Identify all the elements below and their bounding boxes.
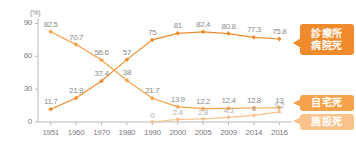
data-point-label: 37.4: [95, 69, 109, 78]
data-point-label: 56.6: [95, 48, 109, 57]
series-marker: [49, 107, 53, 111]
data-point-label: 2.8: [198, 108, 208, 117]
data-point-label: 21.9: [69, 86, 83, 95]
legend-home-line1: 自宅死: [302, 97, 352, 109]
data-point-label: 13.9: [171, 95, 185, 104]
legend-item-hospital[interactable]: 診療所 病院死: [300, 24, 354, 55]
data-point-label: 0: [150, 111, 154, 120]
series-marker: [176, 117, 180, 121]
legend-facility-line1: 施設死: [302, 116, 352, 128]
data-point-label: 57: [123, 48, 131, 57]
series-marker: [176, 31, 180, 35]
series-marker: [252, 35, 256, 39]
series-marker: [227, 115, 231, 119]
data-point-label: 12.4: [222, 96, 236, 105]
series-line: [51, 32, 280, 109]
data-point-label: 82.5: [44, 20, 58, 29]
series-marker: [252, 114, 256, 118]
y-tick-label: 0: [10, 117, 32, 126]
data-point-label: 11.7: [44, 97, 57, 106]
series-marker: [150, 120, 154, 124]
y-tick-label: 30: [10, 84, 32, 93]
legend-item-home[interactable]: 自宅死: [300, 95, 354, 111]
data-point-label: 70.7: [69, 33, 83, 42]
series-line: [152, 112, 279, 122]
data-point-label: 9.2: [274, 101, 284, 110]
y-tick-label: 90: [10, 18, 32, 27]
legend-hospital-line2: 病院死: [302, 40, 352, 52]
series-line: [51, 32, 280, 109]
legend-hospital-line1: 診療所: [302, 28, 352, 40]
series-marker: [201, 30, 205, 34]
data-point-label: 38: [123, 68, 131, 77]
data-point-label: 81: [174, 21, 182, 30]
data-point-label: 75.8: [272, 27, 286, 36]
data-point-label: 80.8: [222, 22, 236, 31]
series-layer: [49, 30, 281, 124]
chart-root: (%) 0306090 1951196019701980199020002005…: [0, 0, 356, 143]
series-marker: [277, 110, 281, 114]
data-point-label: 77.3: [247, 25, 261, 34]
series-marker: [227, 32, 231, 36]
series-marker: [277, 37, 281, 41]
data-point-label: 82.4: [196, 20, 210, 29]
data-point-label: 4.3: [224, 106, 234, 115]
data-point-label: 75: [148, 28, 156, 37]
data-point-label: 6: [252, 104, 256, 113]
x-tick-label: 2016: [264, 128, 294, 137]
y-tick-label: 60: [10, 51, 32, 60]
data-point-label: 12.2: [196, 97, 210, 106]
data-point-label: 21.7: [145, 86, 159, 95]
series-marker: [201, 117, 205, 121]
data-point-label: 2.4: [173, 108, 183, 117]
legend-item-facility[interactable]: 施設死: [300, 114, 354, 130]
